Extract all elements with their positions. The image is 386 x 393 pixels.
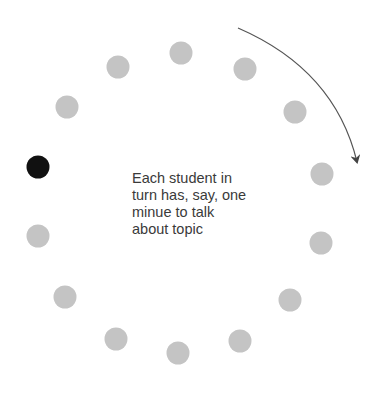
student-dot	[170, 42, 193, 65]
student-dot	[27, 225, 50, 248]
student-dot	[279, 289, 302, 312]
student-dot	[311, 163, 334, 186]
caption: Each student in turn has, say, one minue…	[132, 170, 282, 238]
student-dot	[54, 286, 77, 309]
student-dot	[105, 328, 128, 351]
discussion-circle-diagram: Each student in turn has, say, one minue…	[0, 0, 386, 393]
caption-line: minue to talk	[132, 204, 282, 221]
student-dot	[229, 330, 252, 353]
student-dot	[56, 96, 79, 119]
caption-line: turn has, say, one	[132, 187, 282, 204]
student-dot	[310, 232, 333, 255]
student-dot	[234, 58, 257, 81]
clockwise-arrow-icon	[238, 28, 357, 162]
active-student-dot	[27, 156, 50, 179]
student-dot	[107, 56, 130, 79]
caption-line: Each student in	[132, 170, 282, 187]
student-dot	[167, 342, 190, 365]
student-dot	[284, 101, 307, 124]
caption-line: about topic	[132, 221, 282, 238]
